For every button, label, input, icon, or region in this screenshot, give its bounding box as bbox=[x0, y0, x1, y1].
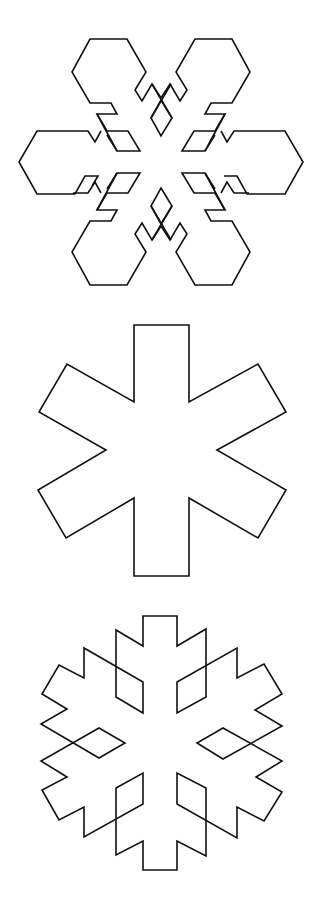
koch-snowflake-drawing bbox=[0, 0, 316, 905]
